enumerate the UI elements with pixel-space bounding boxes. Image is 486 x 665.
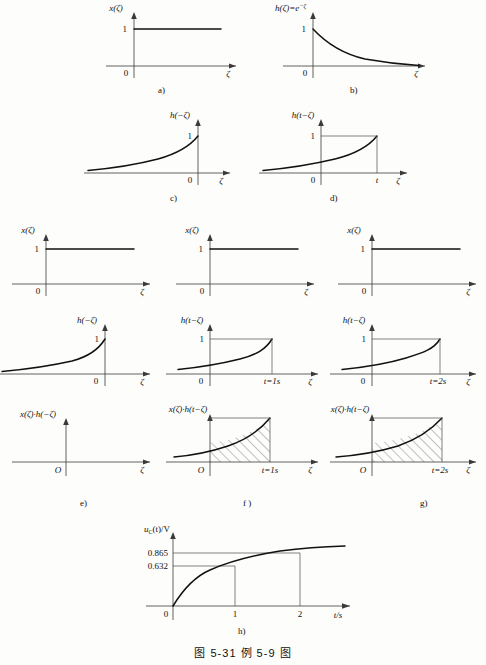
panel-c-ytick-1: 1 — [188, 131, 193, 141]
panel-b-ytick-1: 1 — [302, 24, 307, 34]
panel-e-row1-origin: 0 — [36, 286, 41, 296]
x-axis-arrow — [143, 281, 150, 286]
panel-e-row2: h(−ζ) 1 0 ζ — [0, 318, 162, 386]
panel-a-plot: x(ζ) 1 0 ζ — [96, 6, 246, 78]
y-axis-arrow — [170, 532, 176, 539]
panel-g-row3-origin: O — [360, 465, 367, 475]
panel-c-ylabel: h(−ζ) — [170, 110, 190, 120]
panel-g-caption: g) — [420, 498, 428, 508]
panel-d-t-tick: t — [376, 175, 379, 185]
exp-rise-curve — [342, 339, 440, 370]
panel-d-ytick-1: 1 — [311, 131, 316, 141]
overlap-hatched-area — [372, 418, 442, 462]
exp-rise-curve — [178, 339, 272, 370]
panel-h-ylabel: uC(t)/V — [144, 524, 171, 535]
panel-g-row1-ytick-1: 1 — [361, 244, 366, 254]
y-axis-arrow — [369, 234, 375, 241]
panel-f-row1-ytick-1: 1 — [199, 244, 204, 254]
x-axis-arrow — [311, 371, 318, 376]
panel-d-origin: 0 — [311, 175, 316, 185]
y-axis-arrow — [195, 119, 201, 126]
panel-e-row1-plot: x(ζ) 1 0 ζ — [8, 228, 160, 296]
y-axis-arrow — [369, 414, 375, 421]
panel-b-xlabel: ζ — [414, 69, 419, 79]
panel-f-row1-plot: x(ζ) 1 0 ζ — [172, 228, 324, 296]
panel-e-row2-ylabel: h(−ζ) — [77, 315, 97, 325]
panel-f-row3: x(ζ)·h(t−ζ) O t=1s ζ — [160, 412, 335, 484]
exp-rise-curve — [2, 339, 105, 372]
y-axis-arrow — [43, 234, 49, 241]
panel-f-row2-ylabel: h(t−ζ) — [181, 315, 204, 325]
panel-f-row1-origin: 0 — [200, 286, 205, 296]
panel-f-row2: h(t−ζ) 1 0 t=1s ζ — [160, 318, 330, 386]
panel-h-origin: 0 — [164, 609, 169, 619]
panel-f-row2-ytick-1: 1 — [200, 334, 205, 344]
panel-d-caption: d) — [330, 193, 338, 203]
panel-a-origin: 0 — [124, 68, 129, 78]
x-axis-arrow — [229, 63, 236, 68]
panel-g-row1-xlabel: ζ — [466, 287, 471, 297]
panel-g-row2-t-tick: t=2s — [430, 376, 447, 386]
x-axis-arrow — [400, 170, 407, 175]
panel-f-row2-origin: 0 — [199, 376, 204, 386]
panel-f-row1: x(ζ) 1 0 ζ — [172, 228, 324, 296]
panel-c-xlabel: ζ — [219, 176, 224, 186]
panel-g-row2-plot: h(t−ζ) 1 0 t=2s ζ — [324, 318, 486, 386]
panel-h-xtick-1: 1 — [233, 609, 238, 619]
panel-f-row2-plot: h(t−ζ) 1 0 t=1s ζ — [160, 318, 330, 386]
exp-rise-curve — [88, 136, 198, 171]
panel-c-origin: 0 — [188, 175, 193, 185]
panel-e-row3-ylabel: x(ζ)·h(−ζ) — [19, 409, 56, 419]
y-axis-arrow — [207, 324, 213, 331]
x-axis-arrow — [469, 459, 476, 464]
x-axis-arrow — [469, 371, 476, 376]
panel-f-row2-t-tick: t=1s — [264, 376, 281, 386]
panel-h-xlabel: t/s — [334, 610, 343, 620]
panel-g-row3-ylabel: x(ζ)·h(t−ζ) — [330, 404, 370, 414]
panel-e-row1-xlabel: ζ — [140, 287, 145, 297]
panel-b-ylabel: h(ζ)=e−ζ — [275, 2, 307, 13]
x-axis-arrow — [311, 459, 318, 464]
panel-e-row1: x(ζ) 1 0 ζ — [8, 228, 160, 296]
panel-g-row1: x(ζ) 1 0 ζ — [334, 228, 484, 296]
y-axis-arrow — [63, 418, 69, 425]
y-axis-arrow — [207, 414, 213, 421]
panel-a-xlabel: ζ — [226, 69, 231, 79]
panel-e-row1-ylabel: x(ζ) — [20, 225, 35, 235]
panel-f-row3-t-tick: t=1s — [262, 465, 279, 475]
panel-b-origin: 0 — [303, 68, 308, 78]
panel-c: h(−ζ) 1 0 ζ — [80, 113, 240, 185]
panel-h-xtick-2: 2 — [298, 609, 303, 619]
panel-f-row3-plot: x(ζ)·h(t−ζ) O t=1s ζ — [160, 412, 335, 484]
y-axis-arrow — [131, 12, 137, 19]
panel-d-ylabel: h(t−ζ) — [292, 110, 315, 120]
y-axis-arrow — [207, 234, 213, 241]
figure-caption: 图 5-31 例 5-9 图 — [0, 644, 486, 660]
panel-f-row1-ylabel: x(ζ) — [184, 225, 199, 235]
x-axis-arrow — [223, 170, 230, 175]
panel-e-row3-plot: x(ζ)·h(−ζ) O ζ — [8, 412, 168, 480]
panel-g-row2: h(t−ζ) 1 0 t=2s ζ — [324, 318, 486, 386]
y-axis-arrow — [369, 324, 375, 331]
panel-f-row2-xlabel: ζ — [308, 377, 313, 387]
panel-a: x(ζ) 1 0 ζ — [96, 6, 246, 78]
panel-f-row3-origin: O — [198, 465, 205, 475]
panel-f-row1-xlabel: ζ — [304, 287, 309, 297]
panel-h-ytick-0632: 0.632 — [148, 561, 168, 571]
panel-g-row1-plot: x(ζ) 1 0 ζ — [334, 228, 484, 296]
x-axis-arrow — [143, 371, 150, 376]
panel-e-row2-ytick-1: 1 — [95, 334, 100, 344]
panel-b: h(ζ)=e−ζ 1 0 ζ — [275, 6, 435, 78]
panel-e-row2-origin: 0 — [94, 376, 99, 386]
panel-e-row3: x(ζ)·h(−ζ) O ζ — [8, 412, 168, 480]
panel-g-row1-origin: 0 — [362, 286, 367, 296]
panel-e-row3-origin: O — [55, 465, 62, 475]
panel-f-caption: f ) — [243, 498, 251, 508]
x-axis-arrow — [307, 281, 314, 286]
panel-g-row2-ylabel: h(t−ζ) — [343, 315, 366, 325]
panel-h: uC(t)/V 0.865 0.632 0 1 2 t/s — [110, 524, 380, 624]
panel-b-caption: b) — [350, 85, 358, 95]
y-axis-arrow — [310, 12, 316, 19]
y-axis-arrow — [318, 119, 324, 126]
uc-response-curve — [173, 546, 345, 606]
